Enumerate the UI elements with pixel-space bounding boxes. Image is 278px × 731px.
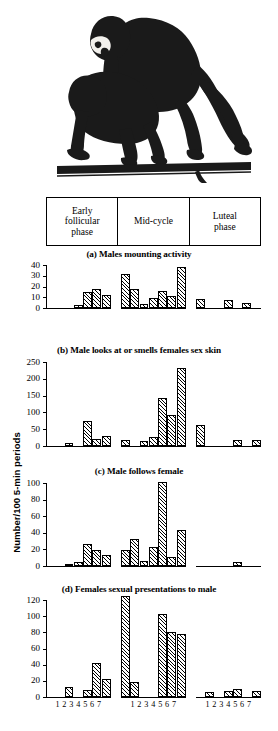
figure-root: Early follicular phase Mid-cycle Luteal … [0, 0, 278, 731]
phase-cell-luteal: Luteal phase [190, 198, 260, 245]
y-axis-line-d [46, 600, 47, 698]
y-tick-label-c: 20 [4, 545, 40, 554]
y-tick-label-b: 0 [4, 442, 40, 451]
bar [233, 562, 242, 566]
y-tick-label-a: 20 [4, 282, 40, 291]
bar [177, 267, 186, 308]
bar [177, 634, 186, 697]
y-tick-label-d: 120 [4, 596, 40, 605]
bar [140, 441, 149, 446]
bar [130, 289, 139, 308]
bar [167, 557, 176, 566]
y-tick-label-d: 40 [4, 660, 40, 669]
y-tick-label-d: 0 [4, 693, 40, 702]
y-tick-d [43, 632, 46, 633]
phase-cell-mid-cycle: Mid-cycle [118, 198, 189, 245]
y-tick-label-d: 20 [4, 676, 40, 685]
phase-label-line: phase [214, 222, 236, 232]
y-tick-label-b: 200 [4, 374, 40, 383]
y-tick-d [43, 665, 46, 666]
bar [83, 421, 92, 446]
bar [158, 398, 167, 446]
monkey-illustration [55, 0, 255, 183]
bar [149, 547, 158, 566]
bar [92, 663, 101, 697]
y-tick-d [43, 681, 46, 682]
y-tick-d [43, 649, 46, 650]
y-tick-label-a: 0 [4, 304, 40, 313]
baseline-b-g2 [121, 446, 186, 447]
y-axis-line-b [46, 362, 47, 447]
bar [167, 632, 176, 697]
bar [167, 296, 176, 308]
bar [158, 614, 167, 697]
baseline-a-g1 [46, 308, 111, 309]
bar [158, 482, 167, 566]
y-tick-a [43, 287, 46, 288]
chart-title-b: (b) Male looks at or smells females sex … [0, 345, 278, 355]
bar [92, 289, 101, 308]
y-tick-b [43, 396, 46, 397]
phase-label-line: follicular [65, 216, 100, 226]
y-tick-a [43, 297, 46, 298]
baseline-c-g2 [121, 566, 186, 567]
y-tick-label-a: 30 [4, 271, 40, 280]
y-tick-d [43, 616, 46, 617]
bar [102, 295, 111, 308]
chart-title-d: (d) Females sexual presentations to male [0, 584, 278, 594]
bar [177, 368, 186, 446]
bar [92, 439, 101, 446]
bar [233, 440, 242, 446]
bar [149, 437, 158, 446]
y-tick-label-b: 250 [4, 358, 40, 367]
bar [140, 304, 149, 308]
bar [224, 691, 233, 697]
baseline-b-g1 [46, 446, 111, 447]
bar [121, 550, 130, 566]
y-tick-c [43, 549, 46, 550]
y-tick-b [43, 412, 46, 413]
y-tick-label-b: 150 [4, 391, 40, 400]
bar [149, 298, 158, 308]
y-tick-b [43, 379, 46, 380]
y-tick-label-d: 80 [4, 628, 40, 637]
bar [140, 561, 149, 566]
bar [83, 544, 92, 566]
baseline-d-g1 [46, 697, 111, 698]
bar [130, 539, 139, 566]
bar [196, 299, 205, 308]
bar [92, 550, 101, 566]
bar [252, 440, 261, 446]
y-tick-label-a: 10 [4, 293, 40, 302]
y-tick-label-c: 0 [4, 562, 40, 571]
bar [74, 305, 83, 308]
y-tick-label-d: 100 [4, 612, 40, 621]
bar [233, 689, 242, 697]
bar [158, 291, 167, 308]
y-tick-c [43, 516, 46, 517]
phase-label-line: Luteal [213, 211, 237, 221]
bar [83, 292, 92, 308]
x-tick-labels-g3: 1 2 3 4 5 6 7 [196, 700, 261, 709]
y-tick-c [43, 533, 46, 534]
bar [74, 562, 83, 566]
y-tick-c [43, 500, 46, 501]
y-tick-label-c: 80 [4, 495, 40, 504]
y-axis-line-c [46, 483, 47, 567]
phase-label-line: Mid-cycle [134, 216, 173, 227]
bar [102, 436, 111, 446]
bar [121, 274, 130, 308]
bar [130, 682, 139, 697]
bar [177, 530, 186, 566]
bar [167, 415, 176, 446]
y-tick-label-b: 50 [4, 425, 40, 434]
plot-area-a: 010203040 [46, 265, 261, 308]
y-tick-label-c: 60 [4, 512, 40, 521]
bar [102, 679, 111, 697]
bar [121, 440, 130, 446]
y-tick-c [43, 483, 46, 484]
y-tick-label-c: 40 [4, 528, 40, 537]
bar [102, 555, 111, 566]
bar [65, 687, 74, 697]
bar [65, 443, 74, 446]
